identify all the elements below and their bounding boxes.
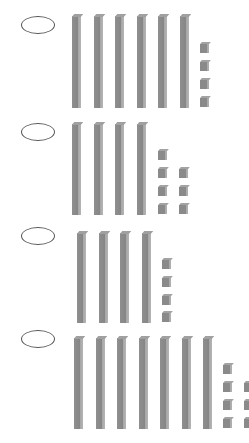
ones-cube [223,365,232,374]
tens-rod [137,124,146,215]
tens-rods [72,16,201,108]
ones-cube [158,205,167,214]
tens-rod [77,233,86,323]
option-3-radio[interactable] [21,227,55,245]
tens-rod [139,338,148,429]
tens-rod [142,233,151,323]
tens-rod [94,124,103,215]
ones-cube [200,62,209,71]
tens-rod [115,124,124,215]
tens-rod [137,16,146,108]
tens-rod [160,338,169,429]
ones-cube [158,169,167,178]
tens-rod [120,233,129,323]
ones-cube [223,419,232,428]
ones-cube [158,187,167,196]
tens-rod [158,16,167,108]
option-2-radio[interactable] [21,123,55,141]
tens-rod [182,338,191,429]
ones-cube [179,205,188,214]
tens-rod [94,16,103,108]
tens-rod [99,233,108,323]
ones-cube [162,296,171,305]
ones-cube [200,98,209,107]
ones-cube [244,401,249,410]
ones-cube [162,313,171,322]
ones-cube [162,260,171,269]
tens-rod [115,16,124,108]
ones-cube [179,187,188,196]
option-2-value: 47 [0,0,1,1]
tens-rod [96,338,105,429]
option-3-value: 44 [0,0,1,1]
ones-cube [244,383,249,392]
ones-cube [223,383,232,392]
tens-rod [72,16,81,108]
tens-rod [117,338,126,429]
option-4-value: 77 [0,0,1,1]
option-1-value: 64 [0,0,1,1]
ones-cube [200,80,209,89]
tens-rods [77,233,163,323]
option-4-radio[interactable] [21,330,55,348]
tens-rods [72,124,158,215]
tens-rod [72,124,81,215]
tens-rods [74,338,225,429]
ones-cube [162,278,171,287]
ones-cube [244,419,249,428]
option-1-radio[interactable] [21,16,55,34]
ones-cube [158,151,167,160]
tens-rod [74,338,83,429]
tens-rod [203,338,212,429]
tens-rod [180,16,189,108]
ones-cube [223,401,232,410]
ones-cube [200,44,209,53]
ones-cube [179,169,188,178]
